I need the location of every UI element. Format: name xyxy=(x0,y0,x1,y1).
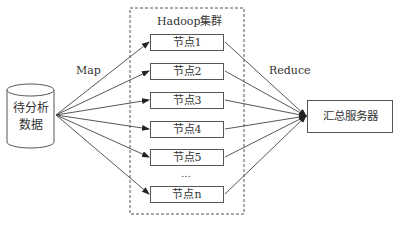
map-label: Map xyxy=(76,64,101,77)
ellipsis: … xyxy=(181,168,191,179)
node-2: 节点2 xyxy=(150,63,224,80)
summary-server: 汇总服务器 xyxy=(307,100,393,133)
node-3: 节点3 xyxy=(150,92,224,109)
node-1: 节点1 xyxy=(150,34,224,51)
node-5: 节点5 xyxy=(150,149,224,166)
reduce-label: Reduce xyxy=(269,64,311,77)
cluster-title: Hadoop集群 xyxy=(157,12,222,28)
map-edges xyxy=(56,42,149,194)
source-label-line2: 数据 xyxy=(7,117,54,134)
source-label-line1: 待分析 xyxy=(7,100,54,117)
source-data-label: 待分析 数据 xyxy=(7,100,54,134)
node-4: 节点4 xyxy=(150,121,224,138)
node-n: 节点n xyxy=(150,186,224,203)
